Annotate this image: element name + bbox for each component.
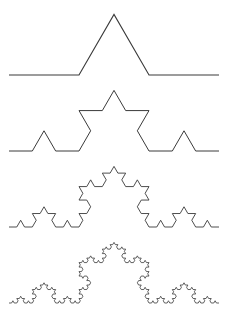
koch-iteration-1 <box>9 14 219 75</box>
koch-iteration-4 <box>9 242 219 303</box>
koch-iteration-2 <box>9 90 219 151</box>
koch-iteration-3 <box>9 166 219 227</box>
koch-curve-diagram <box>0 0 231 314</box>
